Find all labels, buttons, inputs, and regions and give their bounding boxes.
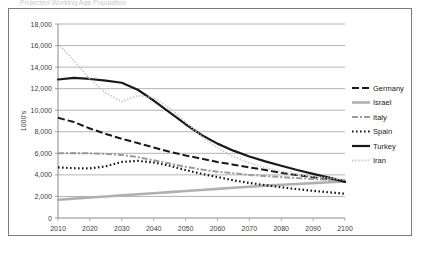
line-chart: 02,0004,0006,0008,00010,00012,00014,0001…	[0, 0, 422, 253]
y-tick-label: 12,000	[31, 85, 53, 92]
y-tick-label: 2,000	[34, 193, 52, 200]
chart-screenshot: Projected Working Age Population 02,0004…	[0, 0, 422, 253]
y-axis-title: 1000's	[20, 110, 27, 131]
series-line-turkey	[58, 78, 345, 182]
x-tick-label: 2080	[273, 225, 289, 232]
x-tick-label: 2050	[178, 225, 194, 232]
y-tick-label: 0	[48, 215, 52, 222]
legend-label-iran: Iran	[373, 156, 386, 165]
y-tick-label: 14,000	[31, 64, 53, 71]
y-tick-label: 6,000	[34, 150, 52, 157]
legend-label-israel: Israel	[373, 98, 392, 107]
x-tick-label: 2010	[50, 225, 66, 232]
series-line-israel	[58, 181, 345, 199]
x-tick-label: 2070	[242, 225, 258, 232]
x-tick-label: 2100	[337, 225, 353, 232]
x-tick-label: 2030	[114, 225, 130, 232]
legend-label-turkey: Turkey	[373, 142, 396, 151]
x-tick-label: 2040	[146, 225, 162, 232]
legend-label-spain: Spain	[373, 127, 392, 136]
legend-label-germany: Germany	[373, 84, 404, 93]
x-tick-label: 2090	[305, 225, 321, 232]
x-tick-label: 2060	[210, 225, 226, 232]
y-tick-label: 8,000	[34, 128, 52, 135]
legend-label-italy: Italy	[373, 113, 387, 122]
y-tick-label: 18,000	[31, 21, 53, 28]
y-tick-label: 10,000	[31, 107, 53, 114]
y-tick-label: 16,000	[31, 42, 53, 49]
series-line-iran	[58, 43, 345, 179]
y-tick-label: 4,000	[34, 171, 52, 178]
x-tick-label: 2020	[82, 225, 98, 232]
